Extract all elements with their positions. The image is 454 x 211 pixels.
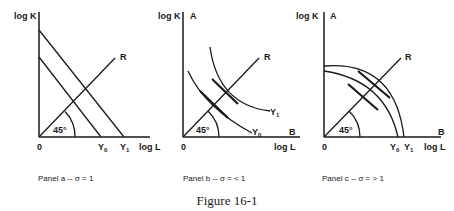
panel-b-caption: Panel b -- σ = < 1 bbox=[183, 174, 246, 183]
panel-b-x-axis-label: log L bbox=[274, 142, 296, 152]
panel-b-angle-arc bbox=[208, 111, 219, 137]
figure-title: Figure 16-1 bbox=[196, 193, 257, 208]
panel-a: log K R 45° 0 Y0 Y1 log L Panel a -- σ =… bbox=[14, 11, 161, 183]
panel-c-isoquant-y0 bbox=[324, 71, 398, 137]
panel-c-y-axis-label: log K bbox=[296, 11, 319, 21]
panel-c-origin-label: 0 bbox=[322, 142, 327, 152]
panel-c-tangent-y0 bbox=[348, 84, 378, 110]
panel-a-x-axis-label: log L bbox=[139, 142, 161, 152]
panel-a-y1-label: Y1 bbox=[120, 142, 130, 153]
panel-b-y-axis-label: log K bbox=[158, 11, 181, 21]
panel-a-angle-label: 45° bbox=[53, 125, 67, 135]
panel-c: log K A R 45° B 0 Y0 Y1 log L Panel c --… bbox=[296, 11, 446, 183]
panel-a-y0-label: Y0 bbox=[98, 142, 108, 153]
panel-b-origin-label: 0 bbox=[181, 142, 186, 152]
panel-b-ray-r bbox=[183, 58, 259, 137]
panel-b-a-label: A bbox=[190, 11, 197, 21]
panel-b: log K A R Y1 Y0 B 45° 0 log L Panel b --… bbox=[158, 11, 300, 183]
panel-a-origin-label: 0 bbox=[37, 142, 42, 152]
panel-b-angle-label: 45° bbox=[196, 125, 210, 135]
panel-c-angle-label: 45° bbox=[339, 125, 353, 135]
panel-a-ray-r bbox=[39, 58, 115, 137]
panel-b-tangent-y1 bbox=[212, 79, 238, 104]
panel-c-y1-label: Y1 bbox=[404, 142, 414, 153]
panel-b-b-label: B bbox=[289, 127, 296, 137]
panel-b-y1-label: Y1 bbox=[270, 107, 280, 118]
panel-a-y-axis-label: log K bbox=[14, 11, 37, 21]
panel-c-ray-label: R bbox=[405, 52, 412, 62]
panel-a-ray-label: R bbox=[120, 52, 127, 62]
panel-c-b-label: B bbox=[438, 127, 445, 137]
figure-16-1: log K R 45° 0 Y0 Y1 log L Panel a -- σ =… bbox=[0, 0, 454, 211]
panel-b-ray-label: R bbox=[264, 52, 271, 62]
panel-b-y0-label: Y0 bbox=[252, 127, 262, 138]
panel-c-y0-label: Y0 bbox=[390, 142, 400, 153]
panel-c-x-axis-label: log L bbox=[424, 142, 446, 152]
panel-b-isoquant-y1 bbox=[210, 47, 270, 111]
panel-c-caption: Panel c -- σ = > 1 bbox=[322, 174, 384, 183]
panel-a-isoquant-y1 bbox=[39, 30, 124, 137]
panel-c-a-label: A bbox=[330, 11, 337, 21]
panel-a-caption: Panel a -- σ = 1 bbox=[38, 174, 94, 183]
